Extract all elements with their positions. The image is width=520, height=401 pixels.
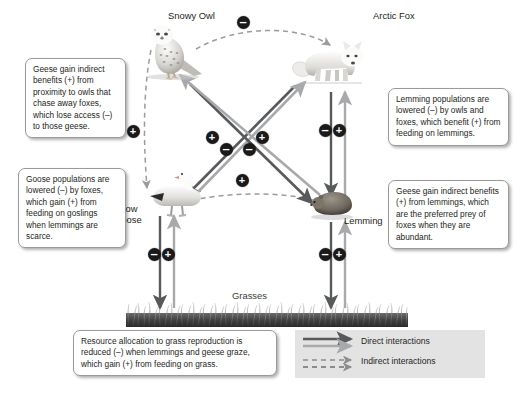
sign-badge-goose-grass-benefit: + [162,248,175,261]
species-label-snowy-owl: Snowy Owl [168,10,215,21]
callout-geese-lemming: Geese gain indirect benefits (+) from le… [388,180,509,249]
arrow-lemming-grass-pair [331,222,345,308]
species-label-lemming: Lemming [344,215,383,226]
arctic-fox-illustration [288,28,368,90]
sign-badge-lemming-owl-cost: – [243,143,256,156]
arrow-fox-lemming-pair [331,92,345,196]
sign-badge-goose-grass-cost: – [148,248,161,261]
species-label-grasses: Grasses [232,290,267,301]
legend-label-indirect: Indirect interactions [361,356,436,366]
snow-goose-illustration [140,168,214,220]
sign-badge-fox-lemming-benefit: + [333,124,346,137]
diagram-canvas: Snowy Owl Arctic Fox Snow Goose Lemming … [0,0,520,401]
callout-grass-grazing: Resource allocation to grass reproductio… [73,330,277,376]
callout-goose-fox: Goose populations are lowered (–) by fox… [18,168,126,248]
species-label-arctic-fox: Arctic Fox [373,10,415,21]
sign-badge-owl-fox-arc: – [237,16,250,29]
legend-label-direct: Direct interactions [361,336,430,346]
callout-owl-geese: Geese gain indirect benefits (+) from pr… [25,58,126,138]
legend: Direct interactions Indirect interaction… [295,330,485,378]
sign-badge-lemming-grass-benefit: + [333,248,346,261]
sign-badge-owl-goose-indirect: + [127,125,140,138]
sign-badge-lemming-owl-benefit: + [256,131,269,144]
sign-badge-goose-fox-cost: – [220,143,233,156]
snowy-owl-illustration [140,22,210,84]
arrow-goose-grass-pair [160,216,174,308]
sign-badge-fox-lemming-cost: – [319,124,332,137]
sign-badge-goose-fox-benefit: + [206,131,219,144]
sign-badge-lemming-grass-cost: – [319,248,332,261]
sign-badge-goose-lemming-indirect: + [236,174,249,187]
callout-lemming-predation: Lemming populations are lowered (–) by o… [388,88,509,146]
